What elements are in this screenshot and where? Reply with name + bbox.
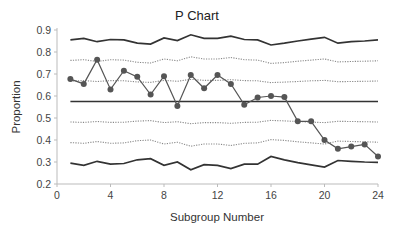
proportion-line: [70, 60, 378, 157]
p-chart: P Chart 0.20.30.40.50.60.70.80.9 0481216…: [0, 0, 395, 231]
data-point-marker: [94, 57, 100, 63]
y-tick-label: 0.9: [36, 24, 51, 36]
y-tick-label: 0.6: [36, 90, 51, 102]
y-tick-label: 0.3: [36, 156, 51, 168]
data-point-marker: [335, 146, 341, 152]
data-point-marker: [295, 118, 301, 124]
data-point-marker: [215, 72, 221, 78]
x-tick-label: 20: [319, 189, 331, 201]
y-tick-label: 0.2: [36, 178, 51, 190]
y-tick-label: 0.7: [36, 68, 51, 80]
data-point-marker: [188, 72, 194, 78]
data-point-marker: [308, 118, 314, 124]
data-point-marker: [348, 144, 354, 150]
data-point-marker: [148, 91, 154, 97]
y-tick-label: 0.8: [36, 46, 51, 58]
x-tick-label: 12: [212, 189, 224, 201]
data-point-marker: [121, 68, 127, 74]
data-point-marker: [375, 154, 381, 160]
x-axis: 04812162024: [54, 184, 384, 201]
data-point-marker: [201, 85, 207, 91]
y-tick-label: 0.5: [36, 112, 51, 124]
y-axis: 0.20.30.40.50.60.70.80.9: [36, 24, 57, 190]
data-point-marker: [81, 81, 87, 87]
data-point-marker: [228, 81, 234, 87]
data-point-marker: [281, 94, 287, 100]
data-point-marker: [362, 141, 368, 147]
x-tick-label: 4: [108, 189, 114, 201]
x-tick-label: 8: [161, 189, 167, 201]
plot-area: [67, 35, 381, 170]
lcl-line: [70, 157, 378, 170]
data-point-marker: [161, 73, 167, 79]
upper-2-sigma-line: [70, 57, 378, 64]
data-point-marker: [134, 74, 140, 80]
data-point-marker: [241, 102, 247, 108]
data-point-marker: [67, 76, 73, 82]
chart-title: P Chart: [175, 8, 219, 23]
data-point-marker: [322, 137, 328, 143]
y-tick-label: 0.4: [36, 134, 51, 146]
x-axis-label: Subgroup Number: [170, 211, 264, 223]
data-point-marker: [108, 86, 114, 92]
y-axis-label: Proportion: [10, 80, 22, 133]
data-point-marker: [268, 93, 274, 99]
x-tick-label: 16: [265, 189, 277, 201]
lower-1-sigma-line: [70, 120, 378, 123]
x-tick-label: 0: [54, 189, 60, 201]
x-tick-label: 24: [372, 189, 384, 201]
data-point-marker: [174, 103, 180, 109]
data-point-marker: [255, 95, 261, 101]
ucl-line: [70, 35, 378, 45]
